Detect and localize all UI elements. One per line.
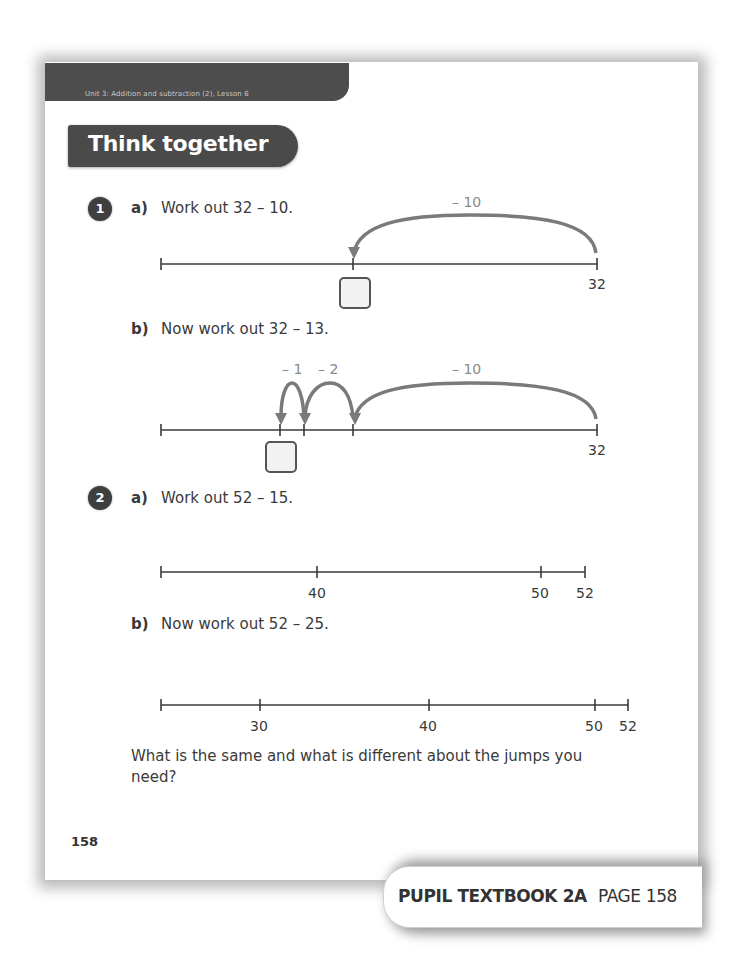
tick-label-40: 40	[308, 585, 326, 601]
number-line-diagrams: 32 – 10 32 – 10 – 2 – 1 40 50 52	[0, 0, 741, 957]
number-line-1b: 32 – 10 – 2 – 1	[161, 361, 606, 458]
tick-label-30: 30	[250, 718, 268, 734]
jump-label-minus-10: – 10	[452, 194, 481, 210]
jump-arrow-minus-10	[355, 383, 596, 419]
tick-label-32: 32	[588, 276, 606, 292]
tick-label-50: 50	[531, 585, 549, 601]
answer-box-1a[interactable]	[339, 277, 371, 309]
arrowhead-icon	[348, 247, 360, 259]
footer-tab: PUPIL TEXTBOOK 2A PAGE 158	[383, 866, 702, 928]
tick-label-52: 52	[619, 718, 637, 734]
jump-arrow-minus-2	[305, 383, 353, 417]
tick-label-52: 52	[576, 585, 594, 601]
jump-label-minus-1: – 1	[282, 361, 302, 377]
tick-label-32: 32	[588, 442, 606, 458]
jump-label-minus-10: – 10	[452, 361, 481, 377]
footer-page: PAGE 158	[598, 886, 677, 906]
tick-label-40: 40	[419, 718, 437, 734]
answer-box-1b[interactable]	[265, 441, 297, 473]
footer-book-title: PUPIL TEXTBOOK 2A PAGE 158	[398, 886, 677, 906]
number-line-1a: 32 – 10	[161, 194, 606, 292]
jump-arrow-minus-10	[354, 215, 596, 253]
number-line-2a: 40 50 52	[161, 566, 594, 601]
jump-arrow-minus-1	[281, 383, 304, 417]
number-line-2b: 30 40 50 52	[161, 699, 637, 734]
tick-label-50: 50	[585, 718, 603, 734]
page-number: 158	[71, 834, 98, 849]
jump-label-minus-2: – 2	[318, 361, 338, 377]
